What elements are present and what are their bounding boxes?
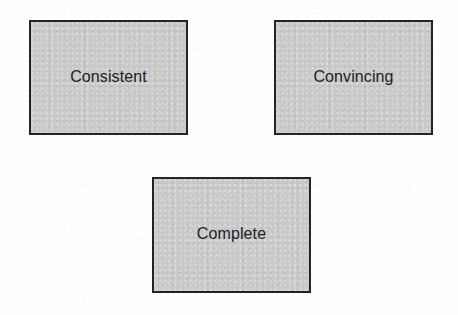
node-label: Convincing — [313, 69, 393, 85]
node-label: Complete — [197, 226, 266, 242]
diagram-node-convincing[interactable]: Convincing — [274, 20, 433, 135]
diagram-canvas: Consistent Convincing Complete — [0, 0, 458, 315]
diagram-node-consistent[interactable]: Consistent — [29, 20, 188, 135]
node-label: Consistent — [70, 69, 147, 85]
diagram-node-complete[interactable]: Complete — [152, 177, 311, 293]
